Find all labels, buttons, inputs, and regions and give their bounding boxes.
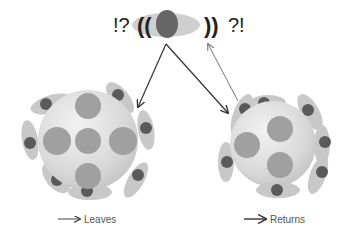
legend-leaves: Leaves (58, 214, 116, 225)
signal-core (156, 10, 178, 38)
inner-circle (267, 152, 293, 178)
right-symbols: ?! (228, 14, 245, 36)
legend-returns: Returns (244, 214, 305, 225)
satellite (19, 119, 42, 161)
arrow-to-left-cell (138, 44, 166, 107)
left-cell (19, 78, 158, 202)
leaves-label: Leaves (84, 214, 116, 225)
inner-circle (43, 127, 71, 155)
right-cell (218, 90, 332, 198)
satellite (256, 182, 300, 198)
diagram-canvas: !? (( )) ?! (0, 0, 350, 233)
inner-circle (109, 127, 137, 155)
inner-circle (75, 163, 101, 189)
satellite (135, 109, 158, 151)
arrow-to-right-cell (166, 44, 228, 113)
inner-circle (234, 132, 260, 158)
left-symbols: !? (113, 14, 130, 36)
left-parens: (( (137, 13, 152, 38)
returns-label: Returns (270, 214, 305, 225)
right-parens: )) (204, 13, 219, 38)
inner-circle (75, 128, 101, 154)
inner-circle (75, 93, 101, 119)
inner-circle (267, 116, 293, 142)
arrow-return-to-signal (208, 44, 238, 101)
